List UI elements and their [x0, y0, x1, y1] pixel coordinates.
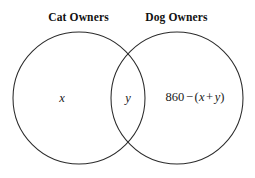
math-expression: 860−(x+y) — [165, 90, 224, 104]
expr-close-paren: ) — [220, 90, 224, 104]
region-value-both: y — [111, 91, 145, 105]
venn-diagram: Cat Owners Dog Owners x y 860−(x+y) — [0, 0, 255, 178]
expr-var-x: x — [199, 90, 205, 104]
venn-circles-graphic — [0, 0, 255, 178]
region-value-cat-only: x — [13, 91, 111, 105]
region-value-dog-only: 860−(x+y) — [145, 90, 245, 104]
expr-total: 860 — [165, 90, 184, 104]
expr-plus-operator: + — [205, 90, 215, 104]
expr-minus-operator: − — [184, 90, 194, 104]
